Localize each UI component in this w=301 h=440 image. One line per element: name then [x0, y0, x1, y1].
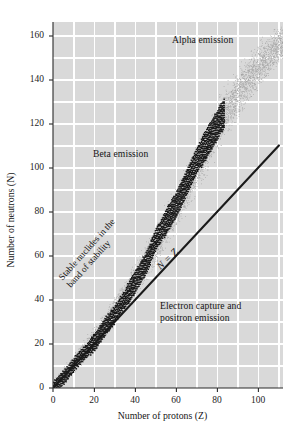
x-tick-0: 0: [51, 396, 56, 406]
x-tick-80: 80: [212, 396, 222, 406]
electron-capture-label: Electron capture and positron emission: [160, 300, 241, 323]
x-tick-20: 20: [89, 396, 99, 406]
alpha-emission-label: Alpha emission: [172, 34, 233, 46]
electron-capture-line1: Electron capture and: [160, 300, 241, 312]
y-tick-marks: [49, 36, 53, 388]
y-tick-140: 140: [22, 75, 44, 85]
x-tick-marks: [53, 388, 258, 392]
y-axis-title: Number of neutrons (N): [6, 173, 16, 268]
x-tick-40: 40: [130, 396, 140, 406]
beta-emission-label: Beta emission: [93, 148, 148, 160]
y-tick-100: 100: [22, 163, 44, 173]
y-tick-20: 20: [22, 339, 44, 349]
y-tick-40: 40: [22, 295, 44, 305]
y-tick-0: 0: [22, 383, 44, 393]
x-tick-60: 60: [171, 396, 181, 406]
y-tick-80: 80: [22, 207, 44, 217]
y-tick-60: 60: [22, 251, 44, 261]
y-tick-120: 120: [22, 119, 44, 129]
x-tick-100: 100: [251, 396, 265, 406]
electron-capture-line2: positron emission: [160, 312, 241, 324]
x-axis-title: Number of protons (Z): [118, 411, 208, 421]
y-tick-160: 160: [22, 31, 44, 41]
plot-canvas: [0, 0, 301, 440]
nuclide-chart-figure: 160 140 120 100 80 60 40 20 0 0 20 40 60…: [0, 0, 301, 440]
